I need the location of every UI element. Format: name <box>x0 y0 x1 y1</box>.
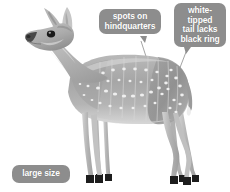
hoof <box>86 175 94 183</box>
nostril <box>27 35 31 38</box>
callout-line: large size <box>16 169 66 179</box>
hoof <box>170 176 178 184</box>
callout-line: hindquarters <box>103 22 157 32</box>
spots-on-hindquarters-callout: spots on hindquarters <box>99 9 161 34</box>
callout-pointer <box>184 47 191 54</box>
hoof <box>105 174 112 181</box>
hoof <box>95 175 103 183</box>
front-legs-near <box>82 112 103 183</box>
callout-pointer <box>140 36 147 43</box>
head <box>25 7 74 51</box>
large-size-callout: large size <box>12 165 70 183</box>
eye <box>47 31 55 38</box>
antelope-identification-figure: spots on hindquarters white- tipped tail… <box>0 0 230 192</box>
callout-line: black ring <box>178 35 222 45</box>
rear-leg-near <box>162 112 191 185</box>
hoof <box>183 177 191 185</box>
white-tipped-tail-callout: white- tipped tail lacks black ring <box>174 3 226 47</box>
hoof <box>192 175 199 182</box>
